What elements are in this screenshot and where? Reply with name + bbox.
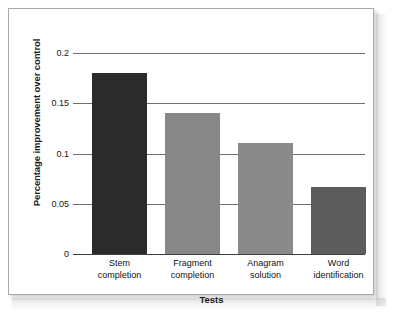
bar [238, 143, 293, 254]
y-tick-label: 0.2 [56, 48, 69, 58]
x-tick-label: Fragmentcompletion [156, 258, 229, 281]
gridline [73, 254, 365, 255]
figure-root: Percentage improvement over control 00.0… [0, 0, 398, 321]
y-tick-label: 0.1 [56, 149, 69, 159]
x-tick-label-line: completion [83, 270, 156, 282]
x-tick-label-line: Word [302, 258, 375, 270]
x-axis-tick-labels: StemcompletionFragmentcompletionAnagrams… [73, 258, 365, 292]
x-tick-label: Stemcompletion [83, 258, 156, 281]
y-tick-label: 0.15 [51, 98, 69, 108]
x-tick-label-line: Stem [83, 258, 156, 270]
bar [165, 113, 220, 254]
bar-series [73, 53, 365, 254]
x-tick-label-line: Fragment [156, 258, 229, 270]
x-tick-label: Anagramsolution [229, 258, 302, 281]
x-tick-label-line: Anagram [229, 258, 302, 270]
x-tick-label-line: completion [156, 270, 229, 282]
x-tick-label: Wordidentification [302, 258, 375, 281]
plot-area: 00.050.10.150.2 [73, 53, 365, 254]
y-tick-label: 0.05 [51, 199, 69, 209]
x-tick-label-line: solution [229, 270, 302, 282]
bar [311, 187, 366, 254]
y-axis-title: Percentage improvement over control [31, 8, 42, 238]
x-tick-label-line: identification [302, 270, 375, 282]
page-shadow-right [376, 14, 388, 306]
x-axis-title: Tests [69, 294, 354, 305]
y-tick-label: 0 [64, 249, 69, 259]
chart-frame: Percentage improvement over control 00.0… [8, 8, 374, 295]
bar [92, 73, 147, 254]
